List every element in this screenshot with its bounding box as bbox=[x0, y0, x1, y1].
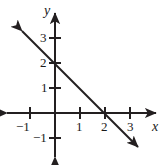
coordinate-plane-svg bbox=[0, 0, 165, 165]
y-tick-label-1: 1 bbox=[41, 81, 48, 94]
x-tick-label-2: 2 bbox=[101, 120, 108, 133]
y-tick-label-neg1: −1 bbox=[33, 131, 47, 144]
x-axis-label: x bbox=[152, 120, 158, 134]
graph-figure: −1 1 2 3 3 2 1 −1 x y bbox=[0, 0, 165, 165]
y-axis-label: y bbox=[44, 4, 50, 18]
x-tick-label-neg1: −1 bbox=[16, 120, 30, 133]
y-tick-label-2: 2 bbox=[40, 56, 47, 69]
x-tick-label-3: 3 bbox=[127, 120, 134, 133]
x-tick-label-1: 1 bbox=[76, 120, 83, 133]
y-tick-label-3: 3 bbox=[40, 31, 47, 44]
